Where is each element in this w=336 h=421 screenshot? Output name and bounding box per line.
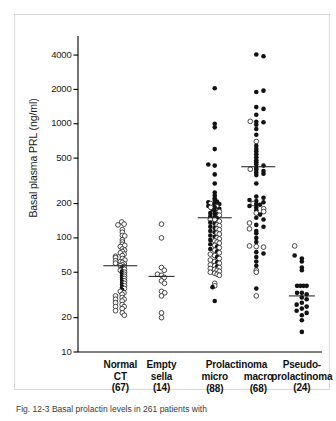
data-point-filled	[300, 291, 305, 296]
data-point-open	[248, 119, 253, 124]
data-point-filled	[254, 90, 259, 95]
data-point-open	[113, 308, 118, 313]
data-point-filled	[254, 286, 259, 291]
data-point-open	[159, 236, 164, 241]
data-point-filled	[247, 204, 252, 209]
data-point-filled	[254, 173, 259, 178]
x-group-label-pseudo-prolactinoma: Pseudo-prolactinoma(24)	[256, 359, 336, 394]
y-axis-tick-label: 50	[32, 266, 72, 277]
x-axis-group-labels: Prolactinoma NormalCT(67)Emptysella(14)m…	[0, 357, 336, 407]
data-point-filled	[254, 263, 259, 268]
data-point-filled	[254, 240, 259, 245]
data-point-open	[247, 226, 252, 231]
data-point-filled	[300, 259, 305, 264]
figure-caption: Fig. 12-3 Basal prolactin levels in 261 …	[16, 404, 316, 419]
data-point-filled	[254, 127, 259, 132]
data-point-filled	[208, 233, 213, 238]
data-point-open	[122, 222, 127, 227]
data-point-filled	[261, 88, 266, 93]
data-point-filled	[208, 238, 213, 243]
data-point-open	[113, 261, 118, 266]
data-point-filled	[208, 242, 213, 247]
data-point-filled	[304, 304, 309, 309]
data-point-filled	[294, 308, 299, 313]
scatter-group-empty-sella	[148, 222, 174, 320]
data-point-open	[208, 205, 213, 210]
x-group-label-line: prolactinoma	[256, 371, 336, 383]
data-point-filled	[300, 313, 305, 318]
data-point-filled	[212, 181, 217, 186]
data-point-open	[159, 311, 164, 316]
data-point-open	[159, 315, 164, 320]
y-axis-tick-label: 20	[32, 311, 72, 322]
x-group-label-line: (24)	[256, 382, 336, 394]
data-point-filled	[212, 163, 217, 168]
data-point-filled	[254, 112, 259, 117]
y-axis-tick-label: 1000	[32, 117, 72, 128]
data-point-filled	[261, 54, 266, 59]
data-point-filled	[294, 302, 299, 307]
data-point-filled	[208, 247, 213, 252]
data-point-open	[159, 222, 164, 227]
data-point-filled	[208, 220, 213, 225]
data-point-open	[217, 273, 222, 278]
y-axis-tick-label: 4000	[32, 49, 72, 60]
data-point-filled	[261, 107, 266, 112]
data-point-filled	[304, 311, 309, 316]
data-point-open	[254, 139, 259, 144]
data-point-open	[248, 167, 253, 172]
data-point-open	[217, 256, 222, 261]
data-point-filled	[300, 306, 305, 311]
data-point-open	[162, 268, 167, 273]
x-group-label-line: (14)	[132, 382, 190, 394]
data-point-filled	[258, 202, 263, 207]
data-point-open	[292, 244, 297, 249]
data-point-filled	[261, 195, 266, 200]
data-point-filled	[254, 259, 259, 264]
data-point-filled	[295, 291, 300, 296]
y-axis-tick-label: 500	[32, 152, 72, 163]
data-point-filled	[208, 225, 213, 230]
scatter-group-pseudo-prolactinoma	[289, 244, 315, 335]
x-group-label-line: Pseudo-	[256, 359, 336, 371]
scatter-group-prolactinoma-micro	[198, 86, 232, 303]
data-point-open	[254, 270, 259, 275]
scatter-group-normal-ct	[103, 220, 137, 318]
y-axis-tick-label: 2000	[32, 83, 72, 94]
data-point-filled	[261, 217, 266, 222]
data-point-filled	[254, 231, 259, 236]
y-axis-tick-label: 100	[32, 231, 72, 242]
data-point-filled	[254, 133, 259, 138]
data-point-filled	[300, 300, 305, 305]
data-point-open	[159, 294, 164, 299]
data-point-filled	[261, 225, 266, 230]
data-point-filled	[254, 236, 259, 241]
data-point-filled	[258, 212, 263, 217]
scatter-group-prolactinoma-macro	[241, 52, 275, 298]
data-point-filled	[261, 171, 266, 176]
data-point-open	[261, 245, 266, 250]
data-point-filled	[254, 255, 259, 260]
data-point-open	[162, 281, 167, 286]
data-point-filled	[212, 125, 217, 130]
data-point-open	[122, 313, 127, 318]
x-group-label-line: sella	[132, 371, 190, 383]
data-point-open	[247, 244, 252, 249]
data-point-filled	[300, 330, 305, 335]
y-axis-tick-label: 200	[32, 197, 72, 208]
data-point-filled	[300, 318, 305, 323]
data-point-filled	[212, 172, 217, 177]
data-point-filled	[254, 250, 259, 255]
data-point-open	[254, 244, 259, 249]
data-point-filled	[304, 284, 309, 289]
data-point-open	[208, 270, 213, 275]
data-point-filled	[254, 122, 259, 127]
x-group-label-line: Empty	[132, 359, 190, 371]
data-point-filled	[254, 181, 259, 186]
data-point-filled	[208, 229, 213, 234]
data-point-filled	[247, 198, 252, 203]
data-point-filled	[254, 223, 259, 228]
data-point-open	[261, 209, 266, 214]
y-axis-tick-label: 10	[32, 346, 72, 357]
data-point-filled	[206, 162, 211, 167]
